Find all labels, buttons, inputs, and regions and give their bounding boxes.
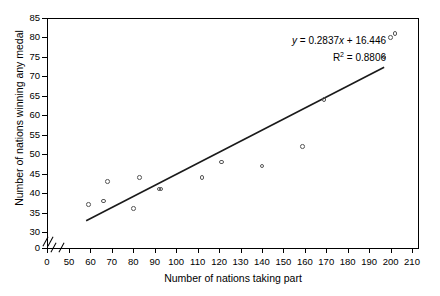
y-tick-55 — [42, 135, 47, 136]
data-point — [86, 202, 91, 207]
y-tick-70 — [42, 76, 47, 77]
x-tick-60 — [90, 248, 91, 253]
x-tick-label-210: 210 — [397, 256, 427, 268]
x-tick-110 — [198, 248, 199, 253]
equation-tail: + 16.446 — [344, 35, 386, 46]
data-point — [105, 179, 110, 184]
r-squared-text: R2 = 0.8806 — [246, 48, 386, 65]
y-tick-40 — [42, 193, 47, 194]
data-point — [393, 31, 398, 36]
plot-frame-right — [418, 18, 419, 248]
x-tick-70 — [112, 248, 113, 253]
r-squared-value: = 0.8806 — [344, 52, 386, 63]
y-tick-label-0: 0 — [12, 243, 40, 253]
data-point — [260, 164, 265, 169]
data-point — [159, 187, 164, 192]
x-tick-160 — [305, 248, 306, 253]
x-tick-label-text: 210 — [397, 256, 427, 267]
y-tick-65 — [42, 96, 47, 97]
y-axis-title: Number of nations winning any medal — [13, 3, 25, 233]
y-tick-30 — [42, 232, 47, 233]
y-tick-label-text: 0 — [16, 243, 40, 252]
equation-body: = 0.2837 — [297, 35, 339, 46]
data-point — [219, 160, 224, 165]
data-point — [300, 144, 305, 149]
y-axis-line — [47, 18, 48, 248]
y-tick-50 — [42, 154, 47, 155]
data-point — [388, 35, 393, 40]
x-tick-210 — [412, 248, 413, 253]
x-tick-150 — [283, 248, 284, 253]
x-tick-120 — [219, 248, 220, 253]
plot-frame-top — [47, 18, 419, 19]
x-tick-50 — [69, 248, 70, 253]
y-axis-break-slash-2 — [47, 236, 53, 246]
y-tick-60 — [42, 115, 47, 116]
x-tick-140 — [262, 248, 263, 253]
x-tick-130 — [241, 248, 242, 253]
data-point — [322, 97, 327, 102]
data-point — [137, 175, 142, 180]
data-point — [101, 199, 106, 204]
scatter-chart-figure: 0303540455055606570758085 05060708090100… — [0, 0, 440, 296]
equation-text: y = 0.2837x + 16.446 — [246, 34, 386, 48]
x-tick-80 — [133, 248, 134, 253]
y-tick-35 — [42, 213, 47, 214]
x-axis-title: Number of nations taking part — [47, 272, 419, 284]
x-tick-90 — [155, 248, 156, 253]
x-tick-190 — [369, 248, 370, 253]
x-tick-200 — [391, 248, 392, 253]
y-tick-80 — [42, 37, 47, 38]
y-tick-85 — [42, 18, 47, 19]
y-tick-45 — [42, 174, 47, 175]
x-tick-0 — [47, 248, 48, 253]
y-tick-75 — [42, 57, 47, 58]
x-tick-170 — [326, 248, 327, 253]
data-point — [200, 175, 205, 180]
x-tick-100 — [176, 248, 177, 253]
x-tick-180 — [348, 248, 349, 253]
regression-annotation: y = 0.2837x + 16.446 R2 = 0.8806 — [246, 34, 386, 65]
data-point — [131, 206, 136, 211]
x-axis-line — [47, 248, 419, 249]
